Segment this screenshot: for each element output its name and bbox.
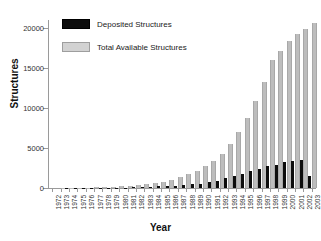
bar-deposited: [174, 186, 177, 188]
bar-deposited: [149, 187, 152, 188]
bar-pair: [74, 20, 82, 188]
x-tick-label: 1982: [138, 195, 145, 209]
bar-pair: [132, 20, 140, 188]
x-tick-label: 1975: [80, 195, 87, 209]
bar-deposited: [258, 169, 261, 188]
bar-deposited: [224, 178, 227, 188]
x-tick-label: 1993: [231, 195, 238, 209]
bar-pair: [90, 20, 98, 188]
x-tick-label: 1974: [71, 195, 78, 209]
x-tick: [262, 188, 263, 192]
bar-pair: [82, 20, 90, 188]
x-tick: [228, 188, 229, 192]
bar-pair: [249, 20, 257, 188]
x-tick: [61, 188, 62, 192]
bar-deposited: [300, 160, 303, 188]
bar-pair: [308, 20, 316, 188]
bar-deposited: [308, 176, 311, 188]
x-tick-label: 1998: [272, 195, 279, 209]
x-tick-label: 1973: [63, 195, 70, 209]
bar-pair: [300, 20, 308, 188]
bar-deposited: [166, 186, 169, 188]
bar-pair: [208, 20, 216, 188]
bar-pair: [166, 20, 174, 188]
x-tick: [77, 188, 78, 192]
bar-pair: [275, 20, 283, 188]
x-tick: [295, 188, 296, 192]
x-tick: [161, 188, 162, 192]
bar-pair: [266, 20, 274, 188]
bar-pair: [99, 20, 107, 188]
x-tick: [102, 188, 103, 192]
x-tick-label: 1972: [55, 195, 62, 209]
x-tick-label: 1991: [214, 195, 221, 209]
x-tick: [278, 188, 279, 192]
x-tick: [169, 188, 170, 192]
x-tick: [245, 188, 246, 192]
x-tick: [312, 188, 313, 192]
y-tick-label: 20000: [23, 24, 44, 33]
x-tick: [270, 188, 271, 192]
bar-pair: [57, 20, 65, 188]
x-tick: [178, 188, 179, 192]
x-tick: [203, 188, 204, 192]
bar-deposited: [291, 161, 294, 188]
x-tick-label: 1990: [205, 195, 212, 209]
x-tick-label: 1987: [180, 195, 187, 209]
x-tick: [52, 188, 53, 192]
x-tick: [211, 188, 212, 192]
x-tick: [94, 188, 95, 192]
x-tick-label: 2003: [314, 195, 321, 209]
x-tick-label: 1981: [130, 195, 137, 209]
x-tick: [69, 188, 70, 192]
x-tick-label: 1997: [264, 195, 271, 209]
plot-area: 05000100001500020000 1972197319741975197…: [48, 20, 316, 188]
x-tick: [128, 188, 129, 192]
x-tick-label: 1996: [256, 195, 263, 209]
bar-pair: [141, 20, 149, 188]
x-tick: [119, 188, 120, 192]
bar-pair: [199, 20, 207, 188]
x-tick-label: 1988: [189, 195, 196, 209]
x-tick-label: 1978: [105, 195, 112, 209]
bar-deposited: [266, 166, 269, 188]
bar-pair: [216, 20, 224, 188]
bar-deposited: [208, 182, 211, 188]
bar-pair: [107, 20, 115, 188]
x-tick: [136, 188, 137, 192]
x-tick-label: 1979: [113, 195, 120, 209]
bar-pair: [149, 20, 157, 188]
bar-pair: [48, 20, 56, 188]
bar-deposited: [216, 181, 219, 188]
x-tick: [303, 188, 304, 192]
x-tick-label: 1992: [222, 195, 229, 209]
bar-deposited: [241, 174, 244, 188]
bar-deposited: [233, 176, 236, 188]
bar-pair: [174, 20, 182, 188]
bar-deposited: [191, 184, 194, 188]
x-tick: [86, 188, 87, 192]
x-axis-line: [48, 188, 316, 189]
x-tick: [111, 188, 112, 192]
x-tick-label: 1984: [155, 195, 162, 209]
x-tick: [153, 188, 154, 192]
y-tick-label: 10000: [23, 104, 44, 113]
x-tick-label: 2001: [298, 195, 305, 209]
bar-pair: [291, 20, 299, 188]
x-tick: [253, 188, 254, 192]
bar-pair: [191, 20, 199, 188]
y-tick-label: 0: [40, 184, 44, 193]
x-tick-label: 1989: [197, 195, 204, 209]
bar-deposited: [199, 184, 202, 188]
x-tick-label: 1976: [88, 195, 95, 209]
x-tick-label: 1977: [97, 195, 104, 209]
bar-pair: [233, 20, 241, 188]
x-tick: [287, 188, 288, 192]
bar-pair: [115, 20, 123, 188]
x-tick-label: 1995: [247, 195, 254, 209]
bar-deposited: [157, 186, 160, 188]
bar-pair: [182, 20, 190, 188]
x-tick-label: 1985: [164, 195, 171, 209]
x-tick-label: 2000: [289, 195, 296, 209]
bar-deposited: [132, 187, 135, 188]
